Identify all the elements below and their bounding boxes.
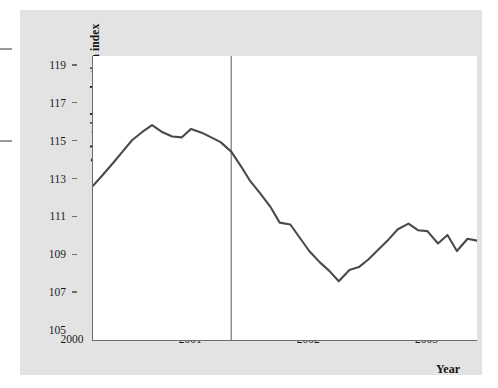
y-tick-label-111: 111: [40, 210, 66, 222]
y-tick-mark-115: [72, 140, 77, 141]
y-tick-mark-119: [72, 64, 77, 65]
y-tick-mark-107: [72, 291, 77, 292]
x-axis-title: Year: [436, 362, 460, 377]
y-tick-label-119: 119: [40, 59, 66, 71]
x-tick-label-2000: 2000: [49, 333, 95, 345]
chart-svg: [93, 56, 477, 340]
edge-tick-bottom-icon: [0, 140, 12, 142]
plot-area: [92, 56, 477, 341]
y-tick-mark-111: [72, 216, 77, 217]
y-tick-label-107: 107: [40, 286, 66, 298]
y-tick-mark-117: [72, 102, 77, 103]
y-tick-mark-109: [72, 254, 77, 255]
industrial-production-index-line: [93, 125, 477, 281]
chart-panel: Industrial production index (1996 = 100)…: [20, 10, 482, 375]
y-tick-mark-113: [72, 178, 77, 179]
y-tick-label-113: 113: [40, 173, 66, 185]
edge-tick-top-icon: [0, 48, 12, 50]
chart-page: Industrial production index (1996 = 100)…: [0, 0, 498, 388]
y-tick-label-115: 115: [40, 135, 66, 147]
y-tick-label-117: 117: [40, 97, 66, 109]
y-tick-label-109: 109: [40, 248, 66, 260]
